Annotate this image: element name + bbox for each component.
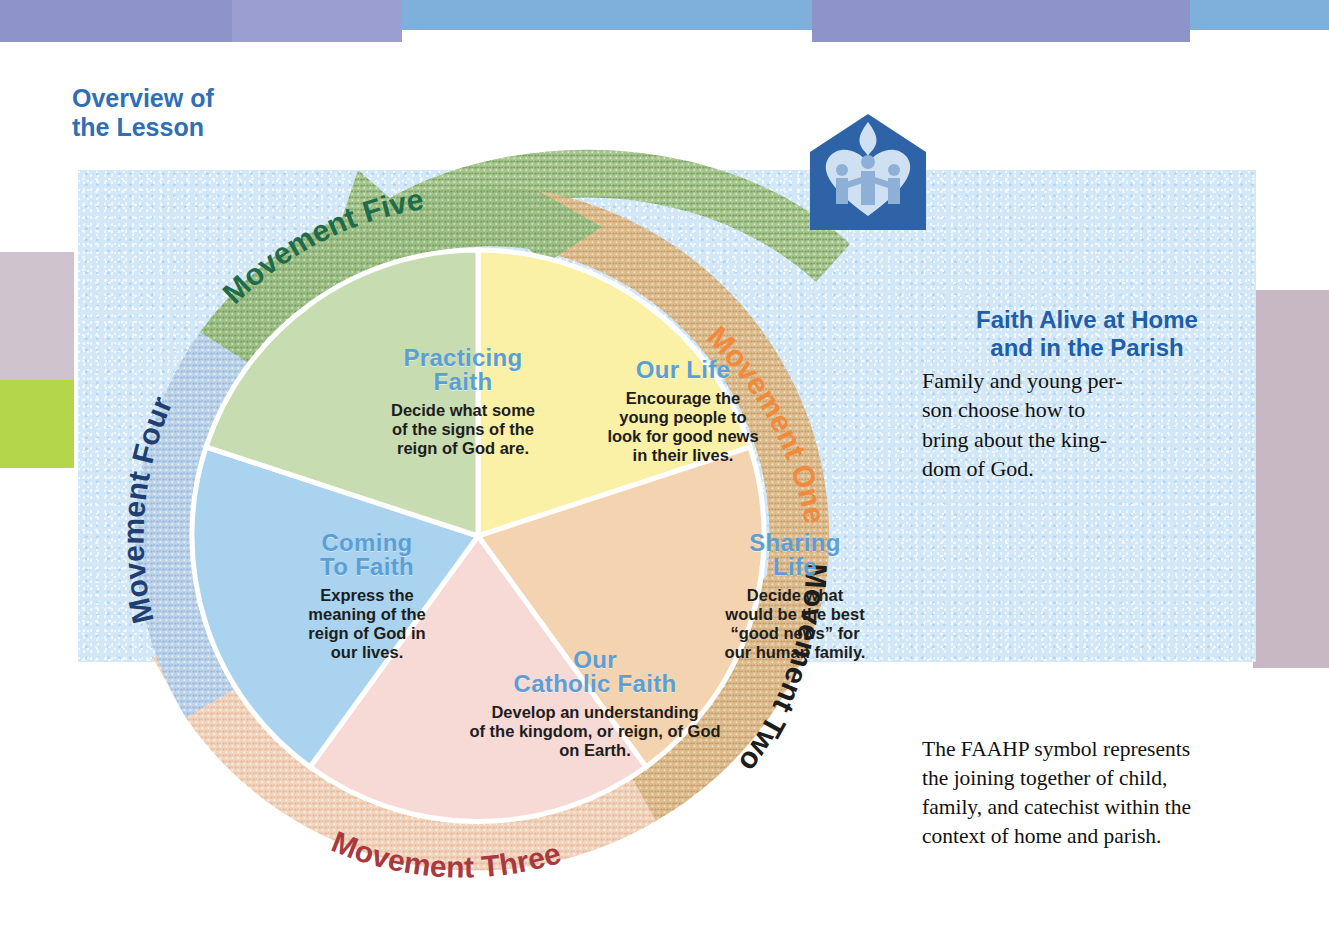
wedge-body-line: “good news” for [698, 624, 892, 643]
wedge-body-line: look for good news [588, 427, 778, 446]
faith-alive-body-line: son choose how to [922, 395, 1252, 424]
faith-alive-title-line1: Faith Alive at Home [922, 306, 1252, 334]
wedge-body-line: Develop an understanding [430, 703, 760, 722]
wedge-title-line1: Practicing [370, 346, 556, 370]
left-edge-band-green [0, 380, 74, 468]
wedge-title-our-catholic-faith: Our Catholic Faith [430, 648, 760, 696]
wedge-body-line: Encourage the [588, 389, 778, 408]
wedge-title-our-life: Our Life [588, 358, 778, 382]
wedge-text-sharing-life: Sharing Life Decide what would be the be… [698, 531, 892, 663]
wedge-body-line: of the kingdom, or reign, of God [430, 722, 760, 741]
faith-alive-title-line2: and in the Parish [922, 334, 1252, 362]
wedge-title-line2: Life [698, 555, 892, 579]
faith-alive-body: Family and young per- son choose how to … [922, 366, 1252, 483]
faith-alive-body-line: bring about the king- [922, 425, 1252, 454]
wedge-text-practicing-faith: Practicing Faith Decide what some of the… [370, 346, 556, 458]
wedge-title-line1: Coming [276, 531, 458, 555]
faahp-symbol-logo [806, 112, 930, 234]
faith-alive-block: Faith Alive at Home and in the Parish Fa… [922, 306, 1252, 483]
wedge-text-our-life: Our Life Encourage the young people to l… [588, 358, 778, 466]
wedge-title-sharing-life: Sharing Life [698, 531, 892, 579]
wedge-title-line2: To Faith [276, 555, 458, 579]
wedge-text-our-catholic-faith: Our Catholic Faith Develop an understand… [430, 648, 760, 760]
wedge-title-line2: Faith [370, 370, 556, 394]
wedge-title-coming-to-faith: Coming To Faith [276, 531, 458, 579]
wedge-title-line1: Sharing [698, 531, 892, 555]
wedge-body-line: our lives. [276, 643, 458, 662]
wedge-body-line: on Earth. [430, 741, 760, 760]
faith-alive-title: Faith Alive at Home and in the Parish [922, 306, 1252, 362]
wedge-body-line: in their lives. [588, 446, 778, 465]
top-edge-band-violet [232, 0, 402, 42]
wedge-body-line: reign of God in [276, 624, 458, 643]
faahp-caption-line: family, and catechist within the [922, 793, 1282, 822]
top-edge-band-blue-center [402, 0, 812, 30]
lesson-movement-wheel: Movement One Movement Two Movement Three… [90, 88, 890, 908]
faahp-caption-line: The FAAHP symbol represents [922, 735, 1282, 764]
faahp-caption-line: the joining together of child, [922, 764, 1282, 793]
left-edge-band-gray [0, 252, 74, 380]
wedge-body-line: of the signs of the [370, 420, 556, 439]
top-edge-band-purple-left [0, 0, 232, 42]
top-edge-band-blue-right [1190, 0, 1329, 30]
faith-alive-body-line: Family and young per- [922, 366, 1252, 395]
wedge-body-line: young people to [588, 408, 778, 427]
wedge-body-line: Decide what [698, 586, 892, 605]
wedge-title-practicing-faith: Practicing Faith [370, 346, 556, 394]
wedge-body-line: reign of God are. [370, 439, 556, 458]
faahp-caption-line: context of home and parish. [922, 822, 1282, 851]
wedge-body-line: meaning of the [276, 605, 458, 624]
faahp-caption: The FAAHP symbol represents the joining … [922, 735, 1282, 851]
faith-alive-body-line: dom of God. [922, 454, 1252, 483]
wedge-text-coming-to-faith: Coming To Faith Express the meaning of t… [276, 531, 458, 663]
wedge-body-line: Express the [276, 586, 458, 605]
top-edge-band-purple-right [812, 0, 1190, 42]
wedge-body-line: Decide what some [370, 401, 556, 420]
wedge-body-line: would be the best [698, 605, 892, 624]
wedge-title-line2: Catholic Faith [430, 672, 760, 696]
wedge-title-line1: Our [430, 648, 760, 672]
right-edge-band-gray [1253, 290, 1329, 668]
